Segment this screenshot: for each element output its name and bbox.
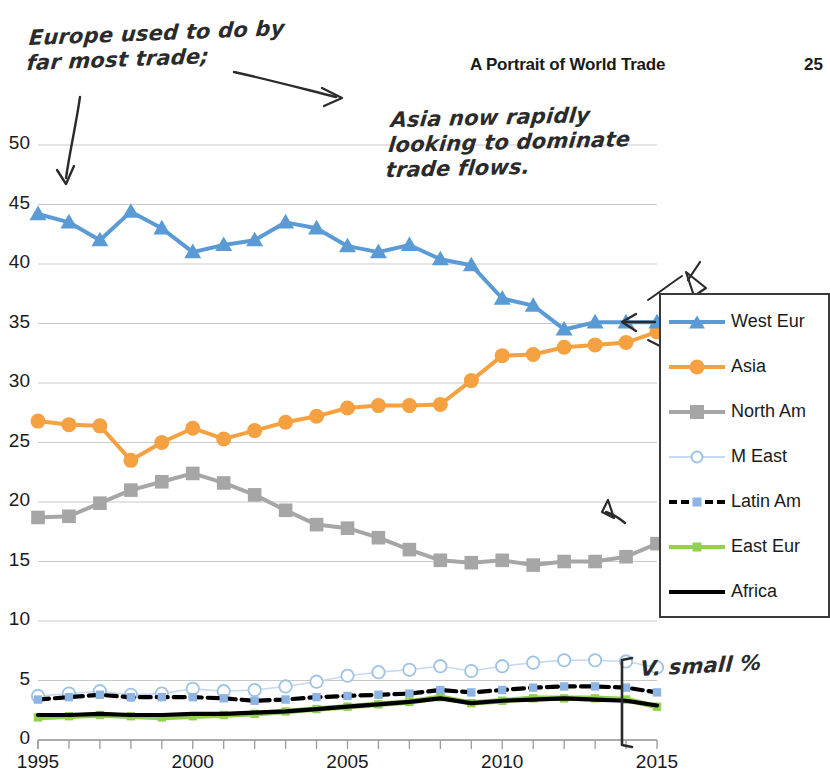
legend-swatch-icon xyxy=(669,536,725,558)
legend-swatch-icon xyxy=(669,311,725,333)
legend-item-label: Asia xyxy=(731,356,766,377)
legend-marker-icon xyxy=(693,542,702,551)
legend-item-label: M East xyxy=(731,446,787,467)
legend-marker-icon xyxy=(691,450,704,463)
legend-item-latin-am[interactable]: Latin Am xyxy=(661,479,828,524)
x-axis xyxy=(38,740,657,749)
legend-item-label: East Eur xyxy=(731,536,800,557)
legend-item-west-eur[interactable]: West Eur xyxy=(661,299,828,344)
legend-item-label: North Am xyxy=(731,401,806,422)
legend-marker-icon xyxy=(693,497,702,506)
y-tick-label: 50 xyxy=(0,132,30,154)
x-tick-label: 2015 xyxy=(622,751,692,773)
legend-item-east-eur[interactable]: East Eur xyxy=(661,524,828,569)
chart-legend: West EurAsiaNorth AmM EastLatin AmEast E… xyxy=(659,293,830,618)
x-tick-label: 2005 xyxy=(313,751,383,773)
legend-item-north-am[interactable]: North Am xyxy=(661,389,828,434)
legend-item-africa[interactable]: Africa xyxy=(661,569,828,614)
y-tick-label: 45 xyxy=(0,192,30,214)
legend-swatch-icon xyxy=(669,581,725,603)
y-tick-label: 25 xyxy=(0,430,30,452)
legend-item-label: West Eur xyxy=(731,311,805,332)
legend-swatch-icon xyxy=(669,356,725,378)
y-tick-label: 30 xyxy=(0,370,30,392)
x-tick-label: 2000 xyxy=(158,751,228,773)
series-north-am xyxy=(31,467,664,572)
legend-marker-icon xyxy=(690,359,705,374)
legend-item-m-east[interactable]: M East xyxy=(661,434,828,479)
gridlines xyxy=(38,145,657,740)
legend-swatch-icon xyxy=(669,491,725,513)
y-tick-label: 5 xyxy=(0,668,30,690)
legend-item-asia[interactable]: Asia xyxy=(661,344,828,389)
y-tick-label: 20 xyxy=(0,489,30,511)
legend-marker-icon xyxy=(689,315,705,328)
legend-item-label: Africa xyxy=(731,581,777,602)
series-west-eur xyxy=(30,203,666,335)
y-tick-label: 35 xyxy=(0,311,30,333)
y-tick-label: 15 xyxy=(0,549,30,571)
y-tick-label: 10 xyxy=(0,608,30,630)
x-tick-label: 1995 xyxy=(3,751,73,773)
series-asia xyxy=(31,324,665,468)
handwritten-note-asia: Asia now rapidly looking to dominate tra… xyxy=(385,102,634,182)
chart-page: A Portrait of World Trade 25 05101520253… xyxy=(0,0,830,779)
handwritten-note-europe: Europe used to do by far most trade; xyxy=(26,16,286,76)
legend-swatch-icon xyxy=(669,401,725,423)
legend-marker-icon xyxy=(690,405,704,419)
y-tick-label: 40 xyxy=(0,251,30,273)
y-tick-label: 0 xyxy=(0,727,30,749)
legend-item-label: Latin Am xyxy=(731,491,801,512)
legend-swatch-icon xyxy=(669,446,725,468)
x-tick-label: 2010 xyxy=(467,751,537,773)
